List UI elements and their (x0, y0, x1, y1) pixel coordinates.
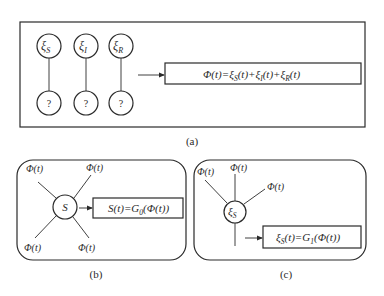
spoke-b-top-left (38, 182, 56, 198)
phi-label-c-right: Φ(t) (267, 181, 285, 193)
panel-c: ξS Φ(t) Φ(t) Φ(t) ξS(t)=G1(Φ(t)) (c) (194, 160, 366, 281)
phi-label-b-bottom-left: Φ(t) (24, 242, 42, 254)
phi-label-c-top-left: Φ(t) (197, 166, 215, 178)
panel-a-caption: (a) (186, 135, 199, 148)
node-xi-s-c: ξS (224, 201, 246, 223)
diagram-canvas: ξS ξI ξR ? ? ? Φ(t)=ξS(t)+ξI(t)+ξR(t) (0, 0, 384, 296)
phi-label-b-top-left: Φ(t) (26, 163, 44, 175)
node-s: S (53, 195, 77, 219)
panel-b: S Φ(t) Φ(t) Φ(t) Φ(t) S(t)=G0(Φ(t)) (b) (17, 160, 186, 281)
svg-text:?: ? (47, 98, 52, 109)
node-unknown-i: ? (74, 91, 98, 115)
spoke-b-bottom-right (73, 217, 89, 238)
node-xi-i: ξI (74, 34, 98, 58)
spoke-c-top-left (205, 180, 227, 203)
phi-label-c-top: Φ(t) (230, 162, 248, 174)
spoke-c-right (244, 189, 265, 204)
node-unknown-r: ? (109, 91, 133, 115)
panel-b-caption: (b) (90, 268, 103, 281)
spoke-b-top-right (74, 175, 91, 198)
spoke-b-bottom-left (35, 216, 56, 238)
phi-label-b-top-right: Φ(t) (86, 162, 104, 174)
svg-text:S: S (62, 201, 68, 213)
svg-text:?: ? (84, 98, 89, 109)
panel-a: ξS ξI ξR ? ? ? Φ(t)=ξS(t)+ξI(t)+ξR(t) (20, 22, 365, 148)
svg-text:?: ? (119, 98, 124, 109)
node-xi-s: ξS (37, 34, 61, 58)
node-xi-r: ξR (109, 34, 133, 58)
panel-c-caption: (c) (280, 268, 293, 281)
phi-label-b-bottom-right: Φ(t) (78, 242, 96, 254)
node-unknown-s: ? (37, 91, 61, 115)
